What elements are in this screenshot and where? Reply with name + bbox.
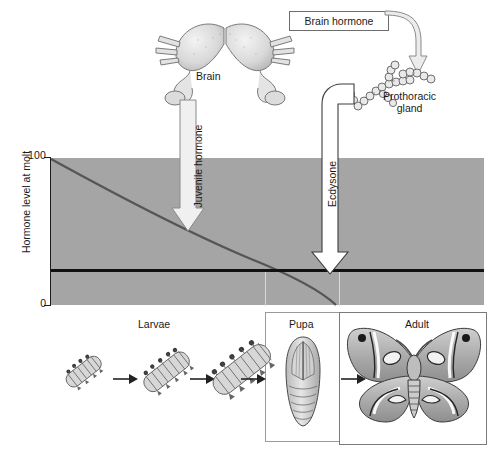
- juvenile-hormone-curve: [51, 158, 484, 305]
- hormone-metamorphosis-figure: 100 0 Hormone level at molt: [0, 0, 501, 452]
- y-axis-title: Hormone level at molt: [20, 132, 32, 272]
- brain-hormone-label-box: Brain hormone: [289, 11, 389, 31]
- larva-illustration-3: [207, 336, 281, 402]
- pupa-stage-label: Pupa: [289, 318, 314, 330]
- stage-arrow-1: [113, 373, 139, 385]
- larva-illustration-1: [58, 348, 110, 396]
- stage-arrow-3: [241, 373, 267, 385]
- adult-moth-illustration: [344, 318, 484, 440]
- ecdysone-arrow-label: Ecdysone: [326, 140, 338, 228]
- brain-label: Brain: [196, 70, 221, 82]
- ecdysone-threshold-line: [51, 269, 484, 272]
- prothoracic-gland-label-line1: Prothoracic: [383, 90, 436, 102]
- y-axis-line: [50, 157, 51, 306]
- brain-illustration: [150, 14, 300, 114]
- prothoracic-gland-label: Prothoracic gland: [383, 90, 436, 114]
- pupa-illustration: [283, 336, 323, 428]
- prothoracic-gland-label-line2: gland: [397, 102, 423, 114]
- juvenile-hormone-arrow-label: Juvenile hormone: [192, 113, 204, 219]
- larvae-stage-label: Larvae: [138, 318, 170, 330]
- larva-illustration-2: [137, 344, 199, 400]
- y-axis-label-0: 0: [20, 297, 46, 309]
